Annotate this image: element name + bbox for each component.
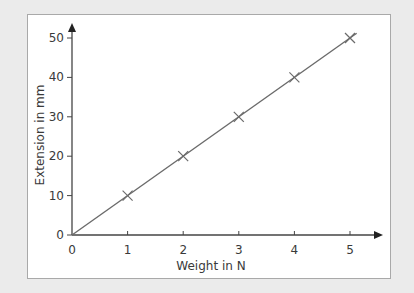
x-tick-label: 1 <box>124 243 132 257</box>
y-tick-label: 20 <box>49 149 64 163</box>
x-tick-label: 0 <box>68 243 76 257</box>
x-tick-label: 3 <box>235 243 243 257</box>
axes <box>68 23 383 239</box>
data-point-cross-icon <box>345 33 355 43</box>
y-axis-label: Extension in mm <box>33 85 47 186</box>
data-point-cross-icon <box>123 191 133 201</box>
x-axis-label: Weight in N <box>176 259 245 273</box>
x-axis-arrow-icon <box>374 231 383 239</box>
data-point-cross-icon <box>234 112 244 122</box>
y-tick-label: 40 <box>49 70 64 84</box>
x-tick-label: 4 <box>291 243 299 257</box>
data-point-cross-icon <box>289 72 299 82</box>
x-tick-label: 5 <box>346 243 354 257</box>
y-tick-label: 30 <box>49 110 64 124</box>
y-axis-arrow-icon <box>68 23 76 32</box>
y-tick-label: 50 <box>49 31 64 45</box>
x-tick-label: 2 <box>179 243 187 257</box>
data-point-cross-icon <box>178 151 188 161</box>
data-series <box>72 33 357 235</box>
y-tick-label: 10 <box>49 189 64 203</box>
line-chart: 01234501020304050 Weight in N Extension … <box>0 0 414 293</box>
y-tick-label: 0 <box>56 228 64 242</box>
best-fit-line <box>72 33 357 235</box>
